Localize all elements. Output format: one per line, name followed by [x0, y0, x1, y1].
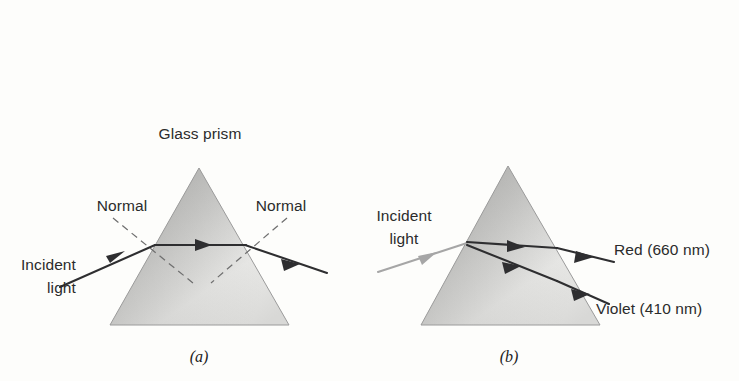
panel-a-caption: (a) — [190, 348, 209, 366]
normal-label-left-a: Normal — [97, 197, 148, 214]
normal-label-right-a: Normal — [256, 197, 307, 214]
panel-a-title: Glass prism — [159, 125, 242, 142]
panel-b-caption: (b) — [500, 348, 519, 366]
incident-light-label-line1-b: Incident — [376, 207, 432, 224]
red-ray-arrowhead-exit-b — [574, 251, 594, 263]
panel-a: Glass prism Normal Normal Incident light… — [21, 125, 327, 366]
panel-b: Incident light Red (660 nm) Violet (410 … — [376, 166, 710, 366]
incident-ray-arrowhead-b — [418, 252, 437, 265]
violet-wavelength-label: Violet (410 nm) — [596, 300, 702, 317]
incident-light-label-line2-b: light — [390, 230, 420, 247]
incident-light-label-line2-a: light — [47, 279, 77, 296]
incident-ray-arrowhead-a — [106, 251, 125, 263]
red-wavelength-label: Red (660 nm) — [614, 241, 710, 258]
prism-dispersion-figure: Glass prism Normal Normal Incident light… — [0, 0, 739, 381]
incident-light-label-line1-a: Incident — [21, 256, 77, 273]
